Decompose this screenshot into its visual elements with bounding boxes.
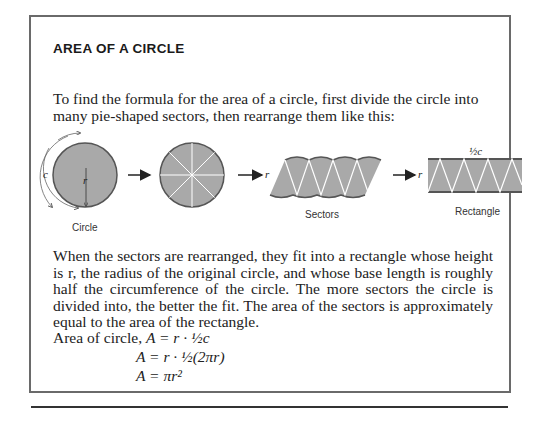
r-label-circle: r [83,174,88,186]
horizontal-rule [31,406,508,408]
r-label-sectors: r [265,168,270,180]
sectors-caption: Sectors [305,209,339,220]
formula-3: A = πr² [136,367,182,384]
formula-lead: Area of circle, [53,329,142,346]
formula-line-1: Area of circle, A = r · ½c [53,329,210,347]
formula-2: A = r · ½(2πr) [136,348,225,365]
r-label-rectangle: r [418,168,423,180]
rectangle-caption: Rectangle [455,206,500,217]
formula-1: A = r · ½c [146,329,210,346]
sectors-figure: Sectors [270,157,381,220]
c-label: c [43,168,48,180]
formula-line-3: A = πr² [136,367,182,385]
circle-figure: c r Circle [40,133,117,233]
explanation-paragraph: When the sectors are rearranged, they fi… [53,248,493,331]
section-title: AREA OF A CIRCLE [53,41,185,56]
formula-line-2: A = r · ½(2πr) [136,348,225,366]
circle-area-diagram: c r Circle r Sectors r ½c Rectangle [0,130,554,245]
divided-circle-figure [160,143,224,207]
rectangle-figure: ½c Rectangle [428,145,522,217]
circle-caption: Circle [72,222,98,233]
intro-text: To find the formula for the area of a ci… [53,90,493,124]
half-c-label: ½c [469,145,482,157]
